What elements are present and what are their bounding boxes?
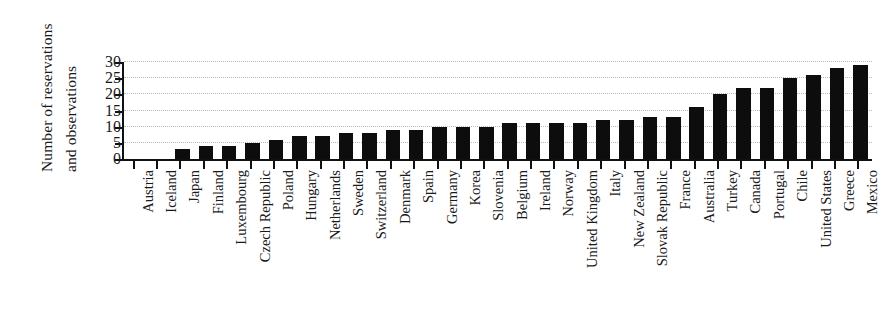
bars-layer — [124, 62, 872, 159]
bar — [479, 127, 493, 159]
bar-slot — [147, 62, 170, 159]
x-axis-label-slot: Korea — [449, 170, 472, 320]
bar — [549, 123, 563, 159]
x-axis-tick-mark — [296, 161, 298, 169]
x-axis-tick-mark — [624, 161, 626, 169]
x-axis-tick-mark — [320, 161, 322, 169]
bar — [573, 123, 587, 159]
x-axis-tick-mark — [156, 161, 158, 169]
bar — [339, 133, 353, 159]
bar — [175, 149, 189, 159]
x-axis-label-slot: Sweden — [332, 170, 355, 320]
x-axis-label-slot: Slovenia — [473, 170, 496, 320]
bar-slot — [638, 62, 661, 159]
bar — [830, 68, 844, 159]
x-axis-tick — [192, 161, 215, 169]
bar-slot — [498, 62, 521, 159]
bar — [222, 146, 236, 159]
x-axis-label-slot: Australia — [683, 170, 706, 320]
x-axis-tick — [543, 161, 566, 169]
bar-slot — [708, 62, 731, 159]
x-axis-label-slot: Denmark — [379, 170, 402, 320]
x-axis-tick-mark — [740, 161, 742, 169]
bar-slot — [264, 62, 287, 159]
bar-slot — [475, 62, 498, 159]
x-axis-label-slot: Italy — [590, 170, 613, 320]
x-axis-labels: AustriaIcelandJapanFinlandLuxembourgCzec… — [122, 170, 870, 320]
bar-slot — [802, 62, 825, 159]
x-axis-tick-mark — [203, 161, 205, 169]
bar-slot — [334, 62, 357, 159]
x-axis-tick — [519, 161, 542, 169]
x-axis-ticks — [122, 161, 870, 169]
bar — [689, 107, 703, 159]
bar — [596, 120, 610, 159]
bar-slot — [545, 62, 568, 159]
bar-slot — [825, 62, 848, 159]
x-axis-tick — [356, 161, 379, 169]
x-axis-tick-mark — [717, 161, 719, 169]
y-axis-tick-label: 30 — [105, 54, 121, 70]
x-axis-tick — [566, 161, 589, 169]
bar-slot — [405, 62, 428, 159]
bar — [619, 120, 633, 159]
x-axis-label-slot: Germany — [426, 170, 449, 320]
x-axis-tick-mark — [179, 161, 181, 169]
bar-slot — [521, 62, 544, 159]
x-axis-label-slot: United States — [800, 170, 823, 320]
x-axis-tick — [590, 161, 613, 169]
x-axis-label-slot: Hungary — [286, 170, 309, 320]
x-axis-label-slot: Chile — [777, 170, 800, 320]
x-axis-tick — [473, 161, 496, 169]
x-axis-tick-mark — [460, 161, 462, 169]
bar-slot — [358, 62, 381, 159]
bar-slot — [311, 62, 334, 159]
bar-slot — [732, 62, 755, 159]
bar-slot — [592, 62, 615, 159]
x-axis-tick — [426, 161, 449, 169]
y-axis-title-line-1: Number of reservations — [38, 23, 56, 172]
bar — [386, 130, 400, 159]
y-axis-tick-label: 25 — [105, 70, 121, 86]
x-axis-label-slot: Japan — [169, 170, 192, 320]
x-axis-tick — [706, 161, 729, 169]
bar-slot — [194, 62, 217, 159]
bar — [713, 94, 727, 159]
x-axis-tick-mark — [530, 161, 532, 169]
x-axis-tick-mark — [507, 161, 509, 169]
x-axis-tick-mark — [764, 161, 766, 169]
y-axis-tick-label: 15 — [105, 103, 121, 119]
x-axis-label-slot: Ireland — [519, 170, 542, 320]
x-axis-tick-mark — [834, 161, 836, 169]
x-axis-tick-mark — [366, 161, 368, 169]
x-axis-label-slot: France — [660, 170, 683, 320]
x-axis-tick — [730, 161, 753, 169]
x-axis-tick-mark — [600, 161, 602, 169]
x-axis-tick-mark — [787, 161, 789, 169]
x-axis-tick — [403, 161, 426, 169]
x-axis-tick — [683, 161, 706, 169]
bar-slot — [615, 62, 638, 159]
x-axis-label-slot: Spain — [403, 170, 426, 320]
x-axis-tick-mark — [226, 161, 228, 169]
bar — [432, 127, 446, 159]
x-axis-tick — [800, 161, 823, 169]
bar-slot — [171, 62, 194, 159]
bar-slot — [241, 62, 264, 159]
y-axis-title-line-2: and observations — [62, 66, 80, 172]
x-axis-label-slot: Switzerland — [356, 170, 379, 320]
x-axis-tick-mark — [694, 161, 696, 169]
x-axis-tick — [262, 161, 285, 169]
x-axis-tick-mark — [553, 161, 555, 169]
x-axis-tick-mark — [273, 161, 275, 169]
x-axis-label-slot: Slovak Republic — [636, 170, 659, 320]
x-axis-tick-mark — [483, 161, 485, 169]
x-axis-tick-mark — [390, 161, 392, 169]
x-axis-tick — [847, 161, 870, 169]
x-axis-tick-mark — [133, 161, 135, 169]
x-axis-tick — [496, 161, 519, 169]
bar — [245, 143, 259, 159]
bar-slot — [568, 62, 591, 159]
x-axis-tick-mark — [437, 161, 439, 169]
x-axis-tick — [122, 161, 145, 169]
